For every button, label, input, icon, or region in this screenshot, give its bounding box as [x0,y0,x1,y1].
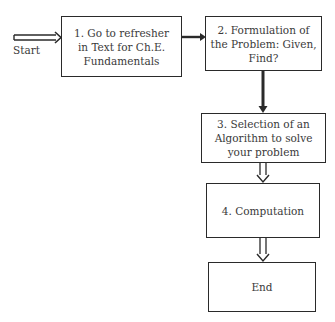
end-text: End [251,280,272,294]
start-label: Start [13,44,40,56]
step-1-box: 1. Go to refresher in Text for Ch.E. Fun… [61,16,182,77]
step-4-box: 4. Computation [206,183,320,238]
step-3-box: 3. Selection of an Algorithm to solve yo… [201,113,326,163]
arrow-2-3-icon [259,71,268,113]
end-box: End [208,262,316,312]
step-4-text: 4. Computation [222,204,304,218]
arrow-4-end-icon [257,238,269,261]
step-2-box: 2. Formulation of the Problem: Given, Fi… [205,16,322,71]
arrow-1-2-icon [182,33,206,41]
step-3-text: 3. Selection of an Algorithm to solve yo… [206,117,321,159]
step-2-text: 2. Formulation of the Problem: Given, Fi… [210,23,317,65]
arrow-3-4-icon [257,163,269,182]
start-arrow-icon [14,32,61,43]
step-1-text: 1. Go to refresher in Text for Ch.E. Fun… [72,26,171,68]
